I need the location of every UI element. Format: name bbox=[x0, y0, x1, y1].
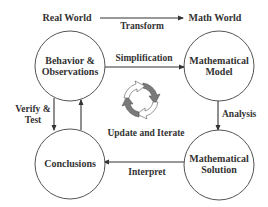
node-mathematical-solution: Mathematical Solution bbox=[184, 130, 254, 200]
node-label-line1: Conclusions bbox=[44, 158, 96, 169]
node-behavior-observations: Behavior & Observations bbox=[35, 31, 105, 101]
transform-label: Transform bbox=[120, 21, 164, 31]
verify-label-line1: Verify & bbox=[15, 104, 50, 114]
cycle-label: Update and Iterate bbox=[107, 128, 184, 138]
refresh-cycle-icon bbox=[122, 81, 160, 119]
modeling-cycle-diagram: Real World Transform Math World Behavior… bbox=[0, 0, 268, 207]
math-world-label: Math World bbox=[189, 12, 242, 23]
node-mathematical-model: Mathematical Model bbox=[184, 31, 254, 101]
cycle-arrow-dark-2 bbox=[122, 96, 139, 117]
real-world-label: Real World bbox=[43, 12, 92, 23]
verify-label-line2: Test bbox=[25, 115, 42, 125]
cycle-arrow-light-2 bbox=[124, 81, 145, 98]
node-label-line2: Observations bbox=[42, 66, 99, 77]
interpret-label: Interpret bbox=[128, 167, 166, 177]
simplification-label: Simplification bbox=[115, 53, 173, 63]
cycle-arrow-dark-1 bbox=[143, 83, 160, 104]
node-label-line1: Mathematical bbox=[189, 55, 249, 66]
node-label-line1: Behavior & bbox=[45, 55, 95, 66]
node-label-line1: Mathematical bbox=[189, 153, 249, 164]
cycle-arrow-light-1 bbox=[137, 102, 158, 119]
node-label-line2: Solution bbox=[201, 164, 237, 175]
node-conclusions: Conclusions bbox=[35, 129, 105, 199]
analysis-label: Analysis bbox=[222, 109, 257, 119]
node-label-line2: Model bbox=[205, 66, 232, 77]
